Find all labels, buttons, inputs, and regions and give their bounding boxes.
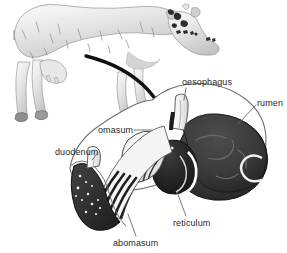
cow-brisket (126, 52, 160, 69)
label-omasum: omasum (98, 125, 133, 135)
label-reticulum: reticulum (173, 218, 210, 228)
cow-ear-right (191, 7, 200, 17)
label-oesophagus: oesophagus (182, 77, 232, 87)
cow-hoof-2 (35, 111, 48, 120)
cow-digestive-system-diagram (0, 0, 287, 253)
label-rumen: rumen (257, 98, 283, 108)
leader-abomasum (128, 214, 136, 236)
cow-body (14, 4, 191, 57)
cow-hoof-1 (15, 113, 28, 122)
stomach-complex (70, 84, 268, 236)
cow-horn (182, 4, 189, 10)
cow-udder (40, 60, 67, 84)
label-abomasum: abomasum (113, 238, 158, 248)
leader-reticulum (177, 192, 186, 216)
label-duodenum: duodenum (55, 147, 98, 157)
cow-hind-leg-far (16, 62, 30, 116)
